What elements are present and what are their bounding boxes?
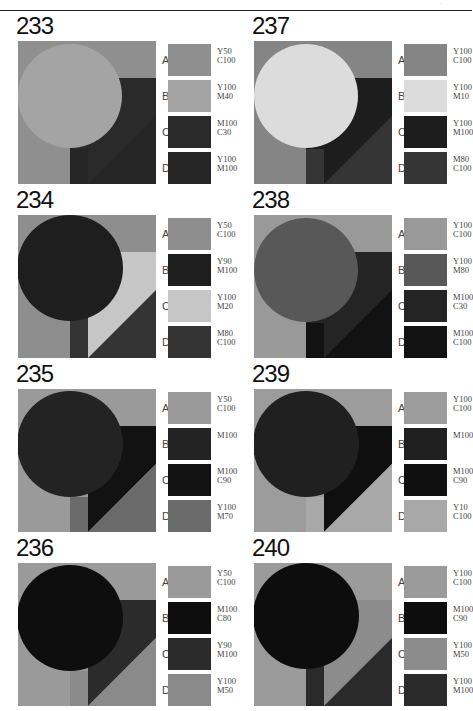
- color-panel-233: 233AY50 C100BY100 M40CM100 C30DY100 M100: [0, 14, 236, 189]
- composition-illustration: [254, 215, 392, 358]
- swatch-cmyk-label: Y50 C100: [217, 569, 235, 586]
- stem-region-d: [70, 315, 88, 358]
- circle-region-b: [18, 44, 122, 148]
- panel-number: 240: [252, 536, 289, 560]
- color-swatch-c: [168, 638, 211, 670]
- color-panel-240: 240AY100 C100BM100 C90CY100 M50DY100 M10…: [236, 536, 472, 711]
- composition-illustration: [18, 41, 156, 184]
- color-swatch-d: [168, 500, 211, 532]
- stem-region-d: [306, 323, 324, 358]
- color-panel-236: 236AY50 C100BM100 C80CY90 M100DY100 M50: [0, 536, 236, 711]
- color-swatch-b: [168, 428, 211, 460]
- composition-illustration: [18, 563, 156, 706]
- swatch-cmyk-label: Y100 M80: [453, 257, 472, 274]
- color-panel-234: 234AY50 C100BY90 M100CY100 M20DM80 C100: [0, 188, 236, 363]
- swatch-cmyk-label: Y10 C100: [453, 503, 471, 520]
- swatch-cmyk-label: Y100 M50: [217, 677, 236, 694]
- swatch-cmyk-label: M80 C100: [453, 155, 471, 172]
- composition-illustration: [254, 389, 392, 532]
- circle-region-b: [254, 44, 358, 148]
- color-swatch-b: [404, 602, 447, 634]
- circle-region-b: [254, 563, 359, 669]
- stem-region-d: [70, 671, 88, 706]
- color-swatch-c: [404, 464, 447, 496]
- stem-region-d: [70, 497, 88, 532]
- swatch-cmyk-label: Y50 C100: [217, 395, 235, 412]
- color-swatch-d: [168, 152, 211, 184]
- color-swatch-a: [168, 218, 211, 250]
- color-swatch-a: [168, 566, 211, 598]
- color-swatch-a: [168, 392, 211, 424]
- swatch-cmyk-label: Y100 M100: [217, 155, 237, 172]
- swatch-cmyk-label: M100 C80: [217, 605, 237, 622]
- stem-region-d: [306, 497, 324, 532]
- color-swatch-c: [168, 290, 211, 322]
- color-swatch-d: [404, 326, 447, 358]
- circle-region-b: [254, 218, 358, 322]
- swatch-cmyk-label: M100: [453, 431, 473, 440]
- circle-region-b: [18, 565, 123, 671]
- swatch-cmyk-label: Y100 M100: [453, 119, 473, 136]
- panel-number: 233: [16, 14, 53, 38]
- swatch-cmyk-label: M100 C100: [453, 329, 473, 346]
- swatch-cmyk-label: Y100 M100: [453, 677, 473, 694]
- color-swatch-b: [404, 80, 447, 112]
- swatch-cmyk-label: Y100 C100: [453, 47, 472, 64]
- panel-number: 237: [252, 14, 289, 38]
- swatch-cmyk-label: M100: [217, 431, 237, 440]
- panel-number: 235: [16, 362, 53, 386]
- color-swatch-c: [168, 464, 211, 496]
- swatch-cmyk-label: Y50 C100: [217, 221, 235, 238]
- color-swatch-c: [404, 638, 447, 670]
- color-swatch-d: [168, 674, 211, 706]
- page-mark: ·: [440, 0, 442, 6]
- stem-region-d: [306, 663, 324, 706]
- color-swatch-d: [404, 674, 447, 706]
- swatch-cmyk-label: M100 C90: [453, 467, 473, 484]
- swatch-cmyk-label: M100 C30: [453, 293, 473, 310]
- swatch-cmyk-label: Y90 M100: [217, 641, 237, 658]
- color-panel-239: 239AY100 C100BM100CM100 C90DY10 C100: [236, 362, 472, 537]
- circle-region-b: [254, 391, 359, 497]
- swatch-cmyk-label: Y50 C100: [217, 47, 235, 64]
- color-swatch-a: [168, 44, 211, 76]
- panel-number: 239: [252, 362, 289, 386]
- color-swatch-a: [404, 218, 447, 250]
- composition-illustration: [18, 215, 156, 358]
- color-panel-237: 237AY100 C100BY100 M10CY100 M100DM80 C10…: [236, 14, 472, 189]
- swatch-cmyk-label: Y100 C100: [453, 221, 472, 238]
- swatch-cmyk-label: Y100 M70: [217, 503, 236, 520]
- color-panel-238: 238AY100 C100BY100 M80CM100 C30DM100 C10…: [236, 188, 472, 363]
- composition-illustration: [254, 41, 392, 184]
- color-swatch-c: [168, 116, 211, 148]
- color-panel-235: 235AY50 C100BM100CM100 C90DY100 M70: [0, 362, 236, 537]
- swatch-cmyk-label: Y100 M50: [453, 641, 472, 658]
- composition-illustration: [254, 563, 392, 706]
- panel-number: 236: [16, 536, 53, 560]
- header-rule: [0, 10, 472, 11]
- swatch-cmyk-label: Y100 C100: [453, 395, 472, 412]
- composition-illustration: [18, 389, 156, 532]
- panel-number: 234: [16, 188, 53, 212]
- color-swatch-d: [404, 152, 447, 184]
- color-swatch-b: [168, 254, 211, 286]
- panel-number: 238: [252, 188, 289, 212]
- swatch-cmyk-label: Y100 C100: [453, 569, 472, 586]
- color-swatch-a: [404, 44, 447, 76]
- swatch-cmyk-label: Y100 M10: [453, 83, 472, 100]
- swatch-cmyk-label: Y90 M100: [217, 257, 237, 274]
- swatch-cmyk-label: M80 C100: [217, 329, 235, 346]
- color-swatch-a: [404, 566, 447, 598]
- color-swatch-d: [168, 326, 211, 358]
- color-swatch-c: [404, 116, 447, 148]
- swatch-cmyk-label: M100 C90: [217, 467, 237, 484]
- swatch-cmyk-label: M100 C30: [217, 119, 237, 136]
- swatch-cmyk-label: Y100 M40: [217, 83, 236, 100]
- color-swatch-b: [168, 80, 211, 112]
- swatch-cmyk-label: Y100 M20: [217, 293, 236, 310]
- stem-region-d: [306, 149, 324, 184]
- circle-region-b: [18, 391, 123, 497]
- color-swatch-b: [168, 602, 211, 634]
- color-swatch-a: [404, 392, 447, 424]
- color-swatch-b: [404, 428, 447, 460]
